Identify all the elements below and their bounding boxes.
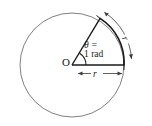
center-label: O <box>62 57 70 68</box>
radius-label: r <box>93 70 97 80</box>
angle-label: θ = 1 rad <box>84 41 103 59</box>
radius-dimension-arrow <box>78 69 122 78</box>
diagram-canvas <box>0 0 152 126</box>
angle-value: 1 rad <box>84 50 103 60</box>
arc-length-dimension-arrow <box>104 12 137 59</box>
radian-diagram: O θ = 1 rad r r <box>0 0 152 126</box>
